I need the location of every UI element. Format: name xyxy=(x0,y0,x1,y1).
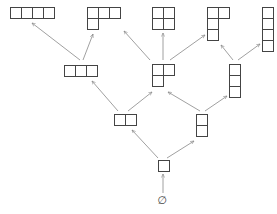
arrow-p3-to-p31 xyxy=(83,34,93,60)
arrow-p2-to-p3 xyxy=(92,81,118,111)
young-diagram-cell xyxy=(164,19,175,30)
young-diagram-cell xyxy=(197,115,208,126)
arrow-p1-to-p2 xyxy=(132,130,158,158)
young-diagram-cell xyxy=(153,65,164,76)
young-diagram-cell xyxy=(153,19,164,30)
node-p2 xyxy=(115,115,137,126)
young-diagram-cell xyxy=(76,66,87,77)
young-diagram-cell xyxy=(88,19,99,30)
arrow-p11-to-p21 xyxy=(168,92,200,111)
young-diagram-cell xyxy=(153,8,164,19)
young-diagram-cell xyxy=(115,115,126,126)
arrow-p3-to-p4 xyxy=(32,23,80,60)
arrow-p21-to-p31 xyxy=(124,31,150,60)
young-diagram-cell xyxy=(263,19,274,30)
young-diagram-cell xyxy=(208,8,219,19)
young-diagram-cell xyxy=(110,8,121,19)
arrow-p2-to-p21 xyxy=(128,92,152,111)
node-p21 xyxy=(153,65,175,87)
young-diagram-cell xyxy=(263,30,274,41)
node-p11 xyxy=(197,115,208,137)
young-diagram-cell xyxy=(11,8,22,19)
young-diagram-cell xyxy=(230,76,241,87)
empty-set-label: ∅ xyxy=(157,194,167,207)
young-diagram-cell xyxy=(219,8,230,19)
node-p3 xyxy=(65,66,98,77)
arrow-p11-to-p111 xyxy=(205,96,227,111)
node-empty: ∅ xyxy=(157,194,167,207)
young-diagram-cell xyxy=(263,8,274,19)
nodes: ∅ xyxy=(11,8,274,208)
edges xyxy=(32,23,260,193)
arrow-p21-to-p211 xyxy=(170,35,205,60)
node-p31 xyxy=(88,8,121,30)
young-diagram-cell xyxy=(65,66,76,77)
young-diagram-cell xyxy=(208,19,219,30)
young-diagram-cell xyxy=(230,65,241,76)
young-diagram-cell xyxy=(99,8,110,19)
young-diagram-cell xyxy=(263,41,274,52)
young-diagram-cell xyxy=(88,8,99,19)
arrow-p111-to-p1111 xyxy=(238,44,260,60)
young-diagram-cell xyxy=(22,8,33,19)
young-diagram-cell xyxy=(87,66,98,77)
young-diagram-cell xyxy=(164,65,175,76)
young-diagram-cell xyxy=(230,87,241,98)
young-diagram-cell xyxy=(164,8,175,19)
young-lattice-diagram: ∅ xyxy=(0,0,277,214)
node-p4 xyxy=(11,8,55,19)
young-diagram-cell xyxy=(126,115,137,126)
young-diagram-cell xyxy=(153,76,164,87)
node-p1111 xyxy=(263,8,274,52)
node-p211 xyxy=(208,8,230,41)
node-p111 xyxy=(230,65,241,98)
young-diagram-cell xyxy=(44,8,55,19)
arrow-p111-to-p211 xyxy=(221,45,233,60)
young-diagram-cell xyxy=(159,161,170,172)
arrow-p1-to-p11 xyxy=(167,141,194,158)
young-diagram-cell xyxy=(33,8,44,19)
young-diagram-cell xyxy=(197,126,208,137)
node-p1 xyxy=(159,161,170,172)
young-diagram-cell xyxy=(208,30,219,41)
node-p22 xyxy=(153,8,175,30)
